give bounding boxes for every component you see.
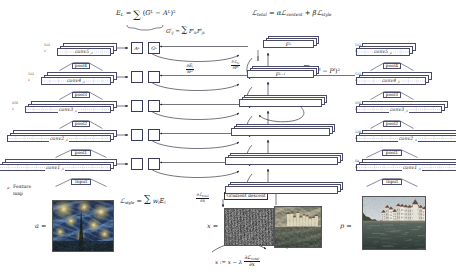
- right-conv-layer-conv2: conv2_11281: [356, 130, 456, 142]
- gradient-content-label: ∂ℒct ∂Fl: [231, 60, 240, 71]
- style-target-box-A-L: AL: [131, 42, 143, 54]
- style-target-box-A: [131, 71, 143, 83]
- layer-sheet: [356, 135, 456, 142]
- gram-matrix-box-G: [148, 71, 160, 83]
- layer-sheet: [7, 135, 111, 142]
- layer-sheet: [356, 106, 442, 113]
- channel-count-label: 512: [44, 43, 50, 47]
- left-input-input: Input: [55, 178, 107, 187]
- left-pool-pool3: pool3: [59, 91, 103, 100]
- pool-label: pool1: [382, 150, 403, 156]
- pool-label: pool4: [72, 63, 90, 69]
- channel-index-label: 1: [355, 49, 357, 53]
- left-conv-layer-conv3: conv3_12561: [25, 101, 117, 113]
- left-conv-layer-conv2: conv2_11281: [7, 130, 117, 142]
- right-pool-pool3: pool3: [370, 91, 414, 100]
- channel-count-label: 64: [355, 159, 359, 163]
- left-pool-pool2: pool2: [59, 120, 103, 129]
- figure-canvas: EL = ∑ (GL − AL)2 ℒtotal = αℒcontent + β…: [0, 0, 456, 275]
- right-input-input: Input: [366, 178, 418, 187]
- right-pool-pool2: pool2: [370, 120, 414, 129]
- layer-sheet: [25, 106, 111, 113]
- feature-map-marker: a: [7, 185, 9, 190]
- generated-image-noise: [224, 208, 274, 246]
- feature-sheet: [231, 128, 330, 136]
- style-image-caption: a =: [35, 222, 46, 230]
- layer-sheet: [41, 77, 111, 85]
- gradient-input-label: ∂ℒtotal ∂x: [196, 193, 209, 203]
- input-label: Input: [71, 179, 92, 185]
- brace-under-style-loss: [126, 24, 164, 31]
- equation-style-layer-loss: EL = ∑ (GL − AL)2: [116, 9, 176, 17]
- right-conv-layer-conv3: conv3_12561: [356, 101, 448, 113]
- channel-count-label: 128: [355, 130, 361, 134]
- gram-matrix-box-G: [148, 129, 160, 141]
- feature-sheet: [225, 186, 338, 194]
- feature-map-label-text: FL: [263, 40, 314, 48]
- pool-label: pool3: [72, 92, 90, 98]
- channel-count-label: 512: [28, 72, 34, 76]
- right-pool-pool4: pool4: [370, 62, 414, 71]
- feature-sheet: [239, 99, 322, 107]
- channel-index-label: 1: [355, 165, 357, 169]
- generated-image-caption: x =: [207, 222, 218, 230]
- pool-label: pool1: [71, 150, 92, 156]
- channel-index-label: 1: [355, 78, 357, 82]
- channel-index-label: 1: [28, 78, 30, 82]
- right-pool-pool1: pool1: [366, 149, 418, 158]
- content-image-tuebingen: [362, 196, 426, 250]
- gram-matrix-box-G-L: GL: [148, 42, 160, 54]
- feature-map-box-4: [225, 153, 343, 165]
- right-conv-layer-conv5: conv5_15121: [356, 43, 416, 56]
- channel-index-label: 1: [12, 107, 14, 111]
- style-image-starry-night: [52, 200, 114, 252]
- feature-map-box-1: FL−1: [247, 66, 319, 78]
- gram-matrix-box-G: [148, 100, 160, 112]
- layer-sheet: [356, 48, 410, 56]
- content-image-caption: p =: [340, 222, 352, 230]
- layer-sheet: [356, 77, 426, 85]
- equation-style-loss: ℒstyle = ∑l wlEl: [120, 195, 165, 205]
- gram-matrix-box-G: [148, 158, 160, 170]
- feature-map-label: Feature map: [13, 184, 39, 197]
- style-target-box-A: [131, 158, 143, 170]
- channel-count-label: 512: [355, 43, 361, 47]
- feature-map-box-0: FL: [263, 36, 319, 48]
- channel-count-label: 256: [355, 101, 361, 105]
- left-pool-pool4: pool4: [59, 62, 103, 71]
- pool-label: pool2: [383, 121, 401, 127]
- left-conv-layer-conv1: conv1_1641: [0, 159, 117, 171]
- style-target-box-A: [131, 100, 143, 112]
- channel-index-label: 1: [355, 107, 357, 111]
- layer-sheet: [57, 48, 111, 56]
- equation-update-rule: x := x − λ ∂ℒtotal ∂x: [215, 255, 260, 268]
- pool-label: pool3: [383, 92, 401, 98]
- channel-count-label: 256: [12, 101, 18, 105]
- layer-sheet: [356, 164, 456, 171]
- channel-count-label: 512: [355, 72, 361, 76]
- equation-gram-matrix: Glij = ∑k FlikFljk: [166, 26, 205, 35]
- right-conv-layer-conv1: conv1_1641: [356, 159, 456, 171]
- left-conv-layer-conv5: conv5_15121: [57, 43, 117, 56]
- left-pool-pool1: pool1: [55, 149, 107, 158]
- generated-image-result: [274, 206, 322, 248]
- right-conv-layer-conv4: conv4_15121: [356, 72, 432, 85]
- equation-total-loss: ℒtotal = αℒcontent + βℒstyle: [252, 9, 332, 17]
- style-target-box-A: [131, 129, 143, 141]
- gradient-style-label: ∂El ∂Fl: [186, 64, 194, 75]
- feature-map-box-3: [231, 124, 335, 136]
- feature-map-label-text: FL−1: [247, 70, 314, 78]
- channel-index-label: 1: [355, 136, 357, 140]
- feature-map-box-2: [239, 95, 327, 107]
- feature-map-box-5: [225, 182, 343, 194]
- pool-label: pool2: [72, 121, 90, 127]
- channel-index-label: 1: [44, 49, 46, 53]
- gradient-descent-label: Gradient descent: [226, 193, 265, 198]
- input-label: Input: [382, 179, 403, 185]
- layer-sheet: [0, 164, 111, 171]
- left-conv-layer-conv4: conv4_15121: [41, 72, 117, 85]
- feature-sheet: [225, 157, 338, 165]
- pool-label: pool4: [383, 63, 401, 69]
